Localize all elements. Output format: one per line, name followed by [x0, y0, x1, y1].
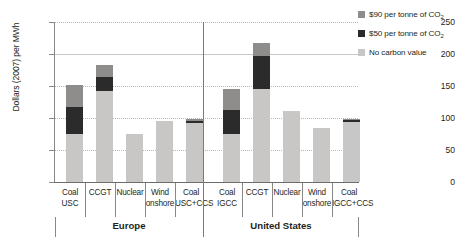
category-europe-ccgt: CCGT [85, 183, 115, 217]
bar-europe-ccgt [96, 65, 113, 182]
category-line1: Nuclear [273, 188, 300, 197]
group-tick-right [358, 217, 359, 237]
category-separator [175, 183, 176, 217]
category-line2: USC [55, 198, 85, 209]
legend-label: No carbon value [369, 48, 426, 58]
category-europe-wind-onshore: Wind onshore [145, 183, 175, 217]
legend-item-90-per-tonne: $90 per tonne of CO2 [358, 10, 455, 20]
category-separator [302, 183, 303, 217]
bar-europe-coal-usc-ccs [186, 119, 203, 182]
category-us-coal-igcc: Coal IGCC [212, 183, 242, 217]
bar-us-ccgt [253, 43, 270, 182]
legend-item-50-per-tonne: $50 per tonne of CO2 [358, 29, 455, 39]
category-separator [242, 183, 243, 217]
bar-segment [253, 56, 270, 89]
legend-item-no-carbon-value: No carbon value [358, 48, 455, 58]
group-label-united-states: United States [204, 220, 358, 231]
legend-label: $50 per tonne of CO2 [369, 29, 444, 39]
bar-segment [96, 77, 113, 91]
bar-us-coal-igcc-ccs [343, 119, 360, 182]
category-line1: Coal [219, 188, 235, 197]
bar-segment [96, 91, 113, 182]
bar-segment [156, 121, 173, 182]
category-line1: Coal [62, 188, 78, 197]
plot-area [55, 22, 358, 182]
bar-segment [253, 43, 270, 56]
category-separator [332, 183, 333, 217]
category-line1: Wind [151, 188, 169, 197]
bar-segment [66, 85, 83, 107]
category-axis-band: Coal USC CCGT Nuclear Wind onshore Coal … [55, 183, 358, 217]
category-line1: Nuclear [116, 188, 143, 197]
bar-segment [96, 65, 113, 77]
category-separator [145, 183, 146, 217]
category-us-nuclear: Nuclear [272, 183, 302, 217]
legend-label: $90 per tonne of CO2 [369, 10, 444, 20]
legend-swatch-icon [358, 30, 365, 37]
bar-segment [253, 89, 270, 182]
category-europe-nuclear: Nuclear [115, 183, 145, 217]
bar-us-nuclear [283, 111, 300, 182]
category-us-wind-onshore: Wind onshore [302, 183, 332, 217]
bar-segment [223, 134, 240, 182]
y-tick-label-50: 50 [409, 145, 455, 155]
category-line2: IGCC [212, 198, 242, 209]
category-separator [272, 183, 273, 217]
bar-segment [126, 134, 143, 182]
bar-segment [343, 122, 360, 182]
legend-swatch-icon [358, 11, 365, 18]
y-tick-label-0: 0 [409, 177, 455, 187]
y-axis-title: Dollars (2007) per MWh [11, 7, 21, 127]
group-label-europe: Europe [55, 220, 203, 231]
category-line1: Wind [308, 188, 326, 197]
bar-us-wind-onshore [313, 128, 330, 182]
bar-europe-nuclear [126, 134, 143, 182]
chart-legend: $90 per tonne of CO2 $50 per tonne of CO… [358, 10, 455, 67]
category-line2: onshore [145, 198, 175, 209]
bar-segment [313, 128, 330, 182]
category-line1: Coal [341, 188, 357, 197]
bar-europe-coal-usc [66, 85, 83, 182]
bar-segment [66, 134, 83, 182]
category-line2: onshore [302, 198, 332, 209]
category-line2: IGCC+CCS [332, 198, 366, 209]
bar-europe-wind-onshore [156, 121, 173, 182]
bar-us-coal-igcc [223, 89, 240, 182]
category-us-ccgt: CCGT [242, 183, 272, 217]
chart-figure: Dollars (2007) per MWh 250 200 150 100 5… [0, 0, 455, 241]
bar-segment [223, 89, 240, 109]
bar-segment [186, 123, 203, 182]
category-line1: Coal [183, 188, 199, 197]
group-divider [203, 22, 204, 237]
category-line1: CCGT [246, 188, 269, 197]
category-line1: CCGT [89, 188, 112, 197]
category-europe-coal-usc: Coal USC [55, 183, 85, 217]
bar-segment [283, 111, 300, 182]
y-tick-label-150: 150 [409, 81, 455, 91]
category-us-coal-igcc-ccs: Coal IGCC+CCS [332, 183, 366, 217]
gridline-200 [55, 54, 358, 55]
bar-segment [223, 110, 240, 134]
category-separator [115, 183, 116, 217]
legend-swatch-icon [358, 49, 365, 56]
y-tick-label-100: 100 [409, 113, 455, 123]
gridline-250 [55, 22, 358, 23]
category-separator [85, 183, 86, 217]
bar-segment [66, 107, 83, 134]
